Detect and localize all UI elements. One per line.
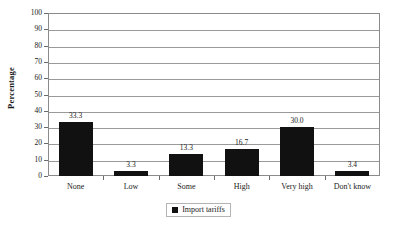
y-tick-label: 0 bbox=[38, 172, 42, 180]
legend-swatch-icon bbox=[172, 207, 178, 213]
bar-slot: 30.0 bbox=[269, 13, 324, 176]
bar-value-label: 30.0 bbox=[290, 117, 303, 125]
x-tick-mark bbox=[269, 176, 270, 180]
y-tick-label: 80 bbox=[35, 42, 43, 50]
x-tick-mark bbox=[103, 176, 104, 180]
bar[interactable] bbox=[225, 149, 259, 176]
y-axis: 0102030405060708090100 bbox=[0, 0, 48, 176]
chart-legend: Import tariffs bbox=[0, 203, 397, 217]
legend-box: Import tariffs bbox=[166, 203, 231, 217]
y-tick-label: 10 bbox=[35, 156, 43, 164]
bars-layer: 33.33.313.316.730.03.4 bbox=[48, 13, 380, 176]
x-tick-mark bbox=[325, 176, 326, 180]
bar-chart: Percentage 0102030405060708090100 33.33.… bbox=[0, 0, 397, 236]
x-tick-label: Very high bbox=[281, 182, 312, 191]
y-tick-label: 30 bbox=[35, 123, 43, 131]
x-tick-label: High bbox=[234, 182, 250, 191]
bar-slot: 3.4 bbox=[325, 13, 380, 176]
bar-slot: 16.7 bbox=[214, 13, 269, 176]
bar-slot: 3.3 bbox=[103, 13, 158, 176]
x-tick-label: Low bbox=[124, 182, 139, 191]
legend-label: Import tariffs bbox=[182, 205, 225, 214]
y-tick-label: 100 bbox=[31, 9, 42, 17]
y-tick-label: 60 bbox=[35, 74, 43, 82]
bar[interactable] bbox=[169, 154, 203, 176]
x-tick-label: None bbox=[67, 182, 84, 191]
y-tick-label: 20 bbox=[35, 139, 43, 147]
bar-slot: 13.3 bbox=[159, 13, 214, 176]
bar[interactable] bbox=[59, 122, 93, 176]
bar-value-label: 3.3 bbox=[126, 161, 135, 169]
x-axis: NoneLowSomeHighVery highDon't know bbox=[48, 176, 380, 200]
y-tick-label: 40 bbox=[35, 107, 43, 115]
bar-slot: 33.3 bbox=[48, 13, 103, 176]
bar-value-label: 33.3 bbox=[69, 112, 82, 120]
x-tick-label: Don't know bbox=[334, 182, 371, 191]
bar-value-label: 13.3 bbox=[180, 144, 193, 152]
x-tick-mark bbox=[214, 176, 215, 180]
y-tick-label: 90 bbox=[35, 25, 43, 33]
x-tick-mark bbox=[159, 176, 160, 180]
bar-value-label: 3.4 bbox=[348, 161, 357, 169]
bar-value-label: 16.7 bbox=[235, 139, 248, 147]
y-tick-label: 70 bbox=[35, 58, 43, 66]
y-tick-label: 50 bbox=[35, 91, 43, 99]
bar[interactable] bbox=[280, 127, 314, 176]
x-tick-label: Some bbox=[177, 182, 195, 191]
